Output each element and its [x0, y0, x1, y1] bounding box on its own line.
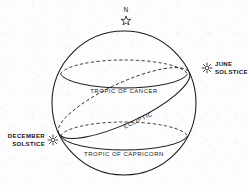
june-solstice-label-line1: JUNE	[215, 61, 232, 67]
december-solstice-label-line1: DECEMBER	[8, 133, 45, 139]
star-icon	[121, 16, 131, 25]
ecliptic-front-arc	[59, 73, 198, 152]
tropic-of-capricorn-label: TROPIC OF CAPRICORN	[84, 151, 164, 157]
ecliptic-label: ECLIPTIC	[123, 111, 154, 130]
june-solstice-label-line2: SOLSTICE	[215, 69, 248, 75]
december-solstice-label-line2: SOLSTICE	[12, 141, 45, 147]
north-pole-label: N	[123, 6, 128, 13]
tropic-of-cancer-back-arc	[61, 60, 188, 74]
tropic-of-cancer-label: TROPIC OF CANCER	[90, 88, 158, 94]
sun-star-icon	[202, 63, 212, 73]
celestial-sphere-diagram: N JUNE SOLSTICE DECEMBER SOLSTICE TROPIC…	[0, 0, 248, 185]
sun-star-icon	[48, 135, 58, 145]
ecliptic-ring	[50, 54, 197, 151]
diagram-canvas: N JUNE SOLSTICE DECEMBER SOLSTICE TROPIC…	[0, 0, 248, 185]
tropic-of-cancer-front-arc	[61, 74, 188, 88]
